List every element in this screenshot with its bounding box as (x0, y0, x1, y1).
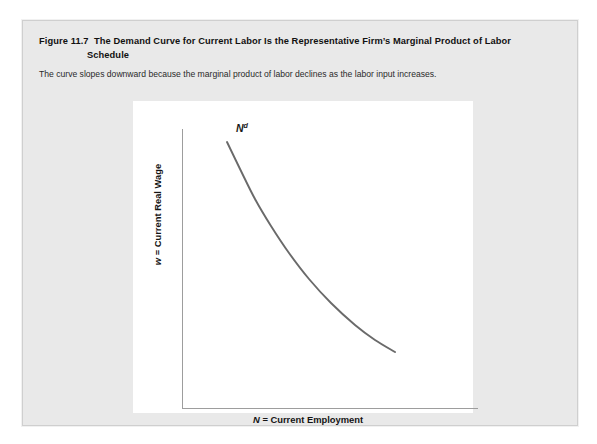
x-axis-label: N = Current Employment (253, 414, 363, 425)
x-axis-variable: N (253, 414, 260, 425)
figure-subtitle: The curve slopes downward because the ma… (39, 68, 561, 80)
figure-title-continuation: Schedule (87, 50, 129, 60)
figure-number: Figure 11.7 (39, 36, 89, 46)
figure-card: Figure 11.7 The Demand Curve for Current… (22, 20, 578, 426)
x-axis-label-text: = Current Employment (260, 414, 363, 425)
figure-title-line-2: Schedule (39, 49, 561, 63)
labor-demand-curve-path (227, 142, 395, 352)
figure-caption-block: Figure 11.7 The Demand Curve for Current… (39, 35, 561, 80)
labor-demand-curve-svg (133, 101, 473, 413)
curve-label-superscript: d (244, 121, 248, 130)
figure-title-line-1: Figure 11.7 The Demand Curve for Current… (39, 35, 561, 49)
curve-label-variable: N (236, 122, 244, 134)
curve-label-nd: Nd (236, 122, 248, 134)
chart-plot-panel: w = Current Real Wage N = Current Employ… (133, 101, 473, 413)
figure-title-text: The Demand Curve for Current Labor Is th… (94, 36, 511, 46)
